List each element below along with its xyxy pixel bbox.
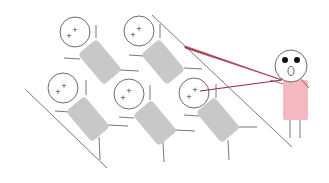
pointer-line-lower xyxy=(200,80,282,91)
svg-text:+: + xyxy=(61,82,67,90)
student-desk xyxy=(141,39,185,85)
svg-text:+: + xyxy=(126,87,132,95)
student-4: + + xyxy=(114,79,195,162)
teacher-body xyxy=(283,80,308,120)
svg-text:+: + xyxy=(136,25,142,33)
pointer-line-upper xyxy=(185,46,282,80)
student-desk xyxy=(196,97,240,143)
student-1: + + xyxy=(60,17,139,85)
student-5: + + xyxy=(179,78,257,160)
teacher-eye-right xyxy=(294,57,300,63)
teacher xyxy=(270,50,309,138)
teacher-head xyxy=(275,50,307,82)
student-desk xyxy=(78,39,122,85)
svg-text:+: + xyxy=(72,26,78,34)
svg-text:+: + xyxy=(192,86,198,94)
teacher-eye-left xyxy=(282,57,288,63)
student-desk xyxy=(133,100,177,146)
student-2: + + xyxy=(124,16,202,85)
svg-text:+: + xyxy=(120,94,126,102)
svg-text:+: + xyxy=(186,93,192,101)
classroom-illustration: + + + + + + + + + xyxy=(0,0,329,183)
